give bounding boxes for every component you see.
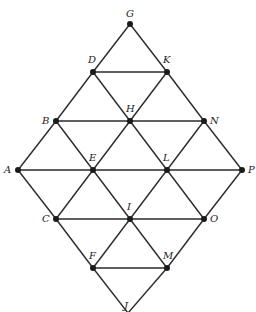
edge-I-M: [130, 219, 167, 268]
edge-N-P: [204, 121, 242, 170]
edges: [18, 24, 242, 312]
edge-I-F: [93, 219, 130, 268]
node-label-L: L: [162, 152, 170, 163]
node-H: [127, 118, 133, 124]
node-C: [53, 216, 59, 222]
edge-B-A: [18, 121, 56, 170]
edge-N-L: [167, 121, 204, 170]
node-M: [164, 265, 170, 271]
edge-P-O: [204, 170, 242, 219]
node-label-E: E: [88, 152, 97, 163]
node-K: [164, 69, 170, 75]
edge-K-N: [167, 72, 204, 121]
edge-L-O: [167, 170, 204, 219]
edge-A-C: [18, 170, 56, 219]
node-P: [239, 167, 245, 173]
edge-D-B: [56, 72, 93, 121]
edge-C-F: [56, 219, 93, 268]
node-L: [164, 167, 170, 173]
node-D: [90, 69, 96, 75]
edge-D-H: [93, 72, 130, 121]
edge-K-H: [130, 72, 167, 121]
node-N: [201, 118, 207, 124]
edge-L-I: [130, 170, 167, 219]
node-label-M: M: [162, 250, 174, 261]
edge-B-E: [56, 121, 93, 170]
node-labels: GDKBHNAELPCIOFMJ: [3, 8, 255, 311]
node-label-H: H: [125, 103, 135, 114]
edge-F-J: [93, 268, 128, 312]
node-E: [90, 167, 96, 173]
node-label-G: G: [126, 8, 134, 19]
edge-G-D: [93, 24, 130, 72]
node-label-N: N: [209, 115, 220, 126]
nodes: [15, 21, 245, 271]
edge-M-J: [128, 268, 167, 312]
node-O: [201, 216, 207, 222]
lattice-diagram: GDKBHNAELPCIOFMJ: [0, 0, 256, 312]
node-label-D: D: [87, 54, 96, 65]
edge-H-L: [130, 121, 167, 170]
edge-H-E: [93, 121, 130, 170]
node-label-K: K: [162, 54, 171, 65]
node-label-J: J: [122, 300, 129, 311]
node-label-A: A: [3, 164, 11, 175]
edge-E-C: [56, 170, 93, 219]
node-B: [53, 118, 59, 124]
edge-E-I: [93, 170, 130, 219]
node-I: [127, 216, 133, 222]
node-G: [127, 21, 133, 27]
node-F: [90, 265, 96, 271]
node-label-F: F: [88, 250, 97, 261]
node-label-B: B: [41, 115, 49, 126]
node-label-P: P: [247, 164, 255, 175]
node-label-I: I: [126, 201, 132, 212]
edge-G-K: [130, 24, 167, 72]
node-label-C: C: [42, 213, 50, 224]
node-A: [15, 167, 21, 173]
node-label-O: O: [210, 213, 218, 224]
